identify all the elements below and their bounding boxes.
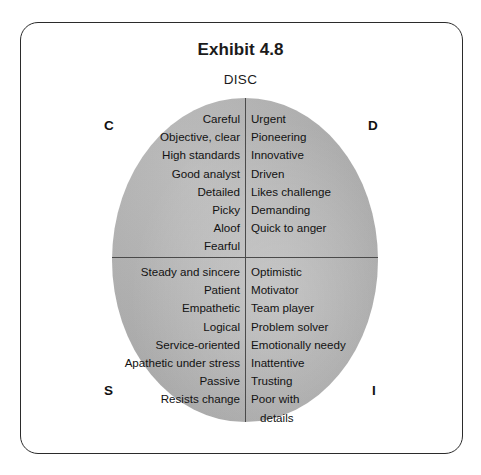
trait-item: Likes challenge	[251, 183, 376, 201]
trait-item: Problem solver	[251, 318, 376, 336]
trait-item: Motivator	[251, 281, 376, 299]
quadrant-label-c: C	[104, 118, 114, 133]
trait-item: Emotionally needy	[251, 336, 376, 354]
trait-item: Passive	[105, 372, 240, 390]
trait-line-1: Poor with	[251, 392, 299, 405]
quadrant-s-traits: Steady and sincere Patient Empathetic Lo…	[105, 263, 240, 409]
quadrant-label-d: D	[368, 118, 378, 133]
trait-item: Patient	[105, 281, 240, 299]
trait-item: Objective, clear	[120, 128, 240, 146]
trait-item: Trusting	[251, 372, 376, 390]
trait-item: Team player	[251, 299, 376, 317]
trait-item: Detailed	[120, 183, 240, 201]
trait-item: Fearful	[120, 237, 240, 255]
trait-item: Empathetic	[105, 299, 240, 317]
trait-item: Good analyst	[120, 165, 240, 183]
trait-item: High standards	[120, 146, 240, 164]
trait-item: Driven	[251, 165, 376, 183]
trait-item: Urgent	[251, 110, 376, 128]
quadrant-label-i: I	[372, 383, 376, 398]
quadrant-label-s: S	[104, 383, 113, 398]
trait-item: Poor withdetails	[251, 390, 376, 426]
trait-item: Demanding	[251, 201, 376, 219]
trait-item: Pioneering	[251, 128, 376, 146]
quadrant-d-traits: Urgent Pioneering Innovative Driven Like…	[251, 110, 376, 237]
trait-item: Picky	[120, 201, 240, 219]
trait-item: Innovative	[251, 146, 376, 164]
trait-item: Aloof	[120, 219, 240, 237]
trait-item: Quick to anger	[251, 219, 376, 237]
trait-line-2: details	[251, 409, 376, 427]
exhibit-page: Exhibit 4.8 DISC Careful Objective, clea…	[0, 0, 481, 475]
trait-item: Careful	[120, 110, 240, 128]
page-subtitle: DISC	[0, 72, 481, 87]
vertical-divider	[245, 98, 246, 422]
page-title: Exhibit 4.8	[0, 40, 481, 60]
trait-item: Resists change	[105, 390, 240, 408]
quadrant-c-traits: Careful Objective, clear High standards …	[120, 110, 240, 256]
trait-item: Service-oriented	[105, 336, 240, 354]
quadrant-i-traits: Optimistic Motivator Team player Problem…	[251, 263, 376, 427]
trait-item: Apathetic under stress	[105, 354, 240, 372]
trait-item: Logical	[105, 318, 240, 336]
trait-item: Inattentive	[251, 354, 376, 372]
trait-item: Optimistic	[251, 263, 376, 281]
trait-item: Steady and sincere	[105, 263, 240, 281]
